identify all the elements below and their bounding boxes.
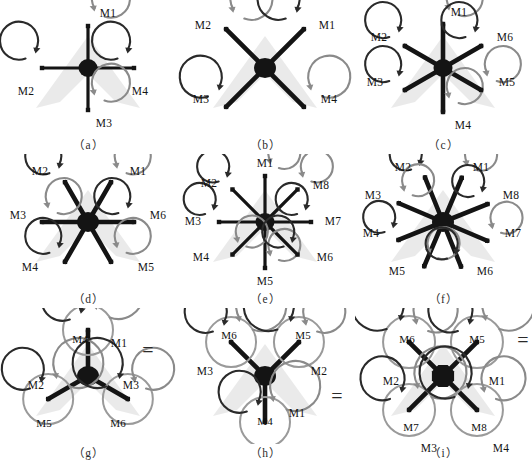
motor-label-c-m6: M6: [497, 32, 513, 44]
motor-label-e-m4: M4: [193, 252, 209, 264]
motor-label-a-m3: M3: [96, 118, 112, 130]
motor-label-i-m5: M5: [469, 334, 485, 346]
equals-sign-h: =: [331, 389, 342, 403]
panel-caption-e: （e）: [177, 290, 354, 306]
motor-label-b-m4: M4: [321, 94, 337, 106]
motor-label-g-m4: M4: [72, 334, 88, 346]
equals-sign-i: =: [517, 333, 528, 347]
panel-caption-f: （f）: [355, 290, 532, 306]
panel-caption-a: （a）: [0, 136, 177, 152]
panel-caption-i: （i）: [355, 444, 532, 460]
panel-b: M2M1M3M4（b）: [177, 0, 354, 154]
airframe-diagram-d: M2M1M3M6M4M5: [0, 154, 177, 290]
motor-label-f-m1: M1: [473, 162, 489, 174]
motor-label-e-m7: M7: [325, 216, 341, 228]
motor-label-i-m1: M1: [489, 376, 505, 388]
airframe-diagram-e: M1M2M8M3M7M4M6M5: [177, 154, 354, 290]
motor-label-h-m2: M2: [311, 366, 327, 378]
motor-label-h-m3: M3: [197, 366, 213, 378]
motor-label-i-m6: M6: [399, 334, 415, 346]
motor-label-c-m4: M4: [455, 120, 471, 132]
motor-label-f-m4: M4: [363, 228, 379, 240]
motor-label-d-m4: M4: [22, 262, 38, 274]
motor-label-f-m7: M7: [505, 228, 521, 240]
motor-label-d-m5: M5: [138, 262, 154, 274]
airframe-diagram-g: M4M1M2M5M3M6=: [0, 308, 177, 444]
airframe-diagram-h: M6M3M5M2M4M1=: [177, 308, 354, 444]
motor-label-g-m6: M6: [110, 418, 126, 430]
motor-label-d-m3: M3: [10, 210, 26, 222]
motor-label-i-m2: M2: [383, 376, 399, 388]
motor-label-e-m2: M2: [201, 178, 217, 190]
panel-a: M1M2M3M4（a）: [0, 0, 177, 154]
motor-label-b-m1: M1: [319, 20, 335, 32]
airframe-diagram-a: M1M2M3M4: [0, 0, 177, 136]
airframe-diagram-b: M2M1M3M4: [177, 0, 354, 136]
motor-label-f-m3: M3: [365, 190, 381, 202]
equals-sign-g: =: [142, 343, 153, 357]
multirotor-configuration-figure: M1M2M3M4（a）M2M1M3M4（b）M1M2M6M3M5M4（c）M2M…: [0, 0, 532, 462]
motor-label-i-m7: M7: [403, 422, 419, 434]
panel-e: M1M2M8M3M7M4M6M5（e）: [177, 154, 354, 308]
motor-label-h-m6: M6: [221, 330, 237, 342]
motor-label-e-m3: M3: [185, 216, 201, 228]
airframe-diagram-c: M1M2M6M3M5M4: [355, 0, 532, 136]
motor-label-e-m6: M6: [317, 252, 333, 264]
motor-label-g-m2: M2: [28, 380, 44, 392]
panel-caption-d: （d）: [0, 290, 177, 306]
panel-f: M2M1M3M8M4M7M5M6（f）: [355, 154, 532, 308]
panel-caption-h: （h）: [177, 444, 354, 460]
motor-label-g-m5: M5: [36, 418, 52, 430]
motor-label-f-m2: M2: [395, 162, 411, 174]
motor-label-d-m6: M6: [150, 210, 166, 222]
panel-caption-g: （g）: [0, 444, 177, 460]
motor-label-h-m4: M4: [257, 416, 273, 428]
motor-label-a-m4: M4: [132, 86, 148, 98]
motor-label-h-m5: M5: [295, 330, 311, 342]
motor-label-i-m8: M8: [471, 422, 487, 434]
motor-label-d-m1: M1: [130, 166, 146, 178]
motor-label-c-m3: M3: [367, 77, 383, 89]
motor-label-c-m1: M1: [451, 7, 467, 19]
motor-label-b-m3: M3: [193, 94, 209, 106]
motor-label-f-m6: M6: [477, 266, 493, 278]
panel-i: M6M2M5M1M7M3M8M4=（i）: [355, 308, 532, 462]
motor-label-e-m5: M5: [257, 276, 273, 288]
panel-h: M6M3M5M2M4M1=（h）: [177, 308, 354, 462]
airframe-diagram-f: M2M1M3M8M4M7M5M6: [355, 154, 532, 290]
panel-g: M4M1M2M5M3M6=（g）: [0, 308, 177, 462]
motor-label-c-m2: M2: [371, 32, 387, 44]
motor-label-a-m2: M2: [18, 86, 34, 98]
motor-label-a-m1: M1: [100, 8, 116, 20]
panel-caption-b: （b）: [177, 136, 354, 152]
motor-label-b-m2: M2: [195, 20, 211, 32]
motor-label-h-m1: M1: [289, 408, 305, 420]
motor-label-g-m1: M1: [111, 338, 127, 350]
panel-c: M1M2M6M3M5M4（c）: [355, 0, 532, 154]
motor-label-c-m5: M5: [499, 77, 515, 89]
motor-label-d-m2: M2: [32, 166, 48, 178]
motor-label-g-m3: M3: [123, 380, 139, 392]
motor-label-f-m5: M5: [389, 266, 405, 278]
motor-label-e-m1: M1: [257, 158, 273, 170]
panel-caption-c: （c）: [355, 136, 532, 152]
motor-label-f-m8: M8: [503, 190, 519, 202]
motor-label-e-m8: M8: [313, 180, 329, 192]
airframe-diagram-i: M6M2M5M1M7M3M8M4=: [355, 308, 532, 444]
panel-d: M2M1M3M6M4M5（d）: [0, 154, 177, 308]
